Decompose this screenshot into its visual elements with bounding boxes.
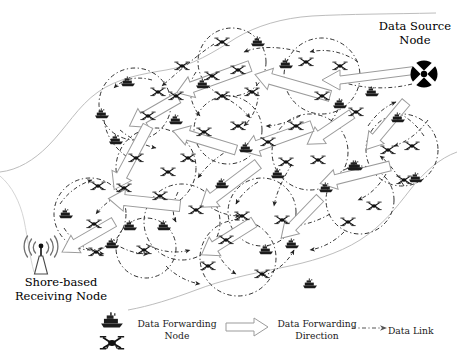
antenna-tower-icon	[35, 256, 48, 274]
legend: Data Forwarding Node Data Forwarding Dir…	[96, 312, 457, 360]
legend-data-link-label: Data Link	[388, 325, 457, 337]
data-source-node-label: Data Source Node	[379, 20, 451, 47]
legend-forwarding-direction-label: Data Forwarding Direction	[274, 318, 360, 341]
shore-receiving-node[interactable]	[0, 0, 457, 363]
legend-block-arrow-icon	[226, 318, 268, 336]
network-diagram: Data Source Node Shore-based Receiving N…	[0, 0, 457, 363]
legend-drone-icon	[100, 337, 124, 349]
legend-forwarding-node-label: Data Forwarding Node	[134, 318, 220, 341]
legend-ship-icon	[101, 312, 123, 327]
shore-receiving-node-label: Shore-based Receiving Node	[2, 276, 120, 303]
